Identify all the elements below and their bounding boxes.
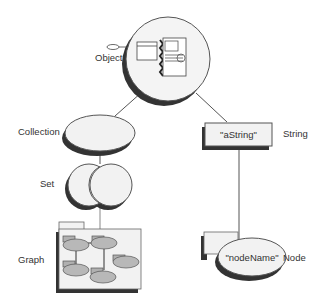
- set-node: [65, 164, 132, 210]
- string-node: "aString": [202, 123, 272, 150]
- collection-label: Collection: [18, 126, 60, 137]
- node-node: "nodeName": [201, 232, 286, 281]
- graph-inner-node: [91, 237, 117, 249]
- object-small-ellipse-icon: [107, 45, 119, 50]
- class-hierarchy-diagram: "aString" "nodeName": [0, 0, 321, 302]
- graph-inner-node: [63, 264, 89, 276]
- set-circle-right: [90, 164, 132, 206]
- object-document-icon: [163, 38, 186, 76]
- graph-label: Graph: [18, 254, 44, 265]
- graph-inner-node: [113, 256, 139, 268]
- connectors: [100, 92, 239, 239]
- edge-object-string: [196, 93, 227, 122]
- graph-node: [56, 222, 141, 293]
- graph-inner-node: [63, 239, 89, 251]
- object-label: Object: [95, 52, 122, 63]
- collection-node: [62, 115, 135, 156]
- node-label: Node: [283, 252, 306, 263]
- graph-inner-node: [90, 271, 116, 283]
- string-value: "aString": [220, 129, 257, 140]
- collection-ellipse: [65, 115, 135, 151]
- node-value: "nodeName": [225, 252, 278, 263]
- string-label: String: [283, 128, 308, 139]
- set-label: Set: [40, 178, 54, 189]
- object-window-icon: [137, 42, 157, 60]
